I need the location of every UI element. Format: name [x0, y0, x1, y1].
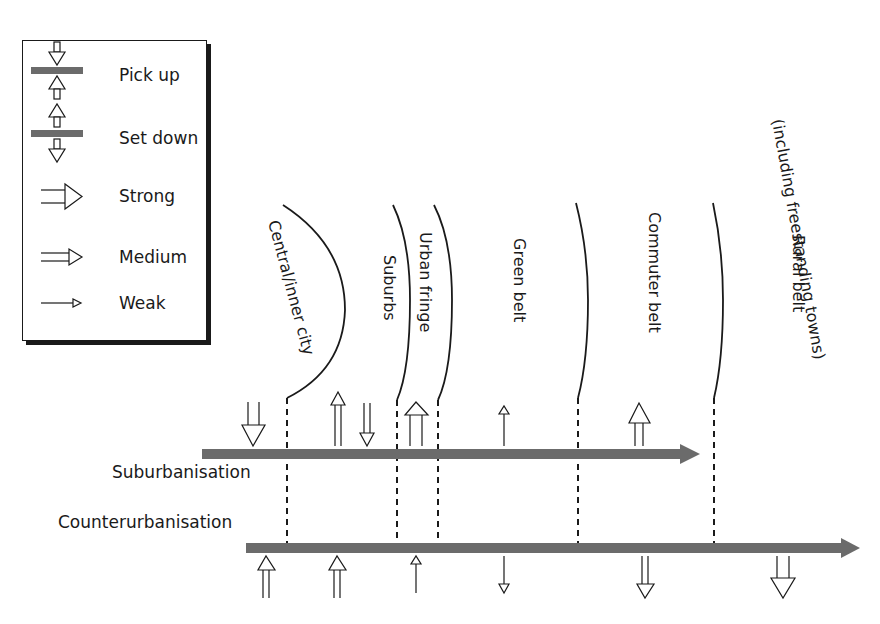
counterurbanisation-arrow: [246, 538, 860, 558]
boundary-urban-fringe: [434, 205, 452, 400]
zone-label: (including freestanding towns): [768, 117, 829, 361]
suburbanisation-flow-arrows: [242, 392, 650, 446]
zone-label: Central/inner city: [264, 218, 318, 357]
zone-label: Green belt: [510, 238, 529, 322]
boundary-green-belt: [576, 203, 588, 398]
zone-label: Urban fringe: [416, 232, 435, 332]
zone-label: Commuter belt: [645, 212, 664, 333]
counterurbanisation-flow-arrows: [258, 556, 795, 598]
suburbanisation-label: Suburbanisation: [112, 462, 251, 482]
suburbanisation-arrow: [202, 444, 700, 464]
counterurbanisation-label: Counterurbanisation: [58, 512, 232, 532]
boundary-commuter-belt: [713, 203, 723, 398]
zone-dividers: [287, 398, 714, 550]
zone-label-central: Central/inner city: [264, 218, 318, 357]
zone-label: Suburbs: [380, 255, 399, 321]
